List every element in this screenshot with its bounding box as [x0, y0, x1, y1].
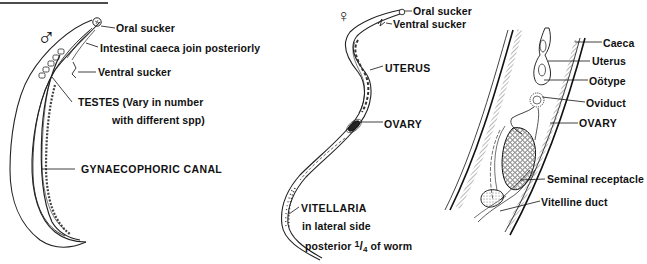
detail-label-oviduct: Oviduct: [586, 97, 626, 109]
male-label-oral-sucker: Oral sucker: [116, 22, 175, 34]
male-symbol: ♂: [37, 24, 56, 49]
detail-label-uterus: Uterus: [592, 55, 626, 67]
female-label-vitellaria: VITELLARIA: [301, 202, 367, 214]
of-worm-text: of worm: [371, 240, 413, 252]
male-label-ventral-sucker: Ventral sucker: [98, 66, 171, 78]
female-label-ovary: OVARY: [384, 118, 422, 130]
detail-label-caeca: Caeca: [603, 37, 634, 49]
detail-label-ovary: OVARY: [579, 117, 617, 129]
female-label-ventral-sucker: Ventral sucker: [393, 18, 466, 30]
fraction-one-quarter: 1/4: [354, 239, 367, 253]
male-label-intestinal-caeca: Intestinal caeca join posteriorly: [100, 42, 260, 54]
female-label-vitellaria-lateral: in lateral side: [302, 220, 371, 232]
fraction-denominator: 4: [363, 245, 368, 254]
female-label-vitellaria-posterior: posterior 1/4 of worm: [305, 238, 412, 256]
male-label-testes-line2: with different spp): [112, 114, 205, 126]
detail-label-vitelline-duct: Vitelline duct: [541, 196, 608, 208]
female-leader-lines: [289, 11, 412, 214]
female-label-uterus: UTERUS: [385, 62, 431, 74]
female-label-oral-sucker: Oral sucker: [413, 5, 472, 17]
fraction-numerator: 1: [354, 239, 359, 249]
female-symbol: ♀: [337, 7, 351, 25]
male-label-testes: TESTES (Vary in number: [78, 96, 203, 108]
posterior-text: posterior: [305, 240, 351, 252]
detail-label-seminal-receptacle: Seminal receptacle: [547, 173, 644, 185]
male-label-gynaecophoric-canal: GYNAECOPHORIC CANAL: [81, 163, 222, 175]
male-worm-drawing: [10, 18, 101, 248]
detail-label-ootype: Oötype: [589, 75, 626, 87]
